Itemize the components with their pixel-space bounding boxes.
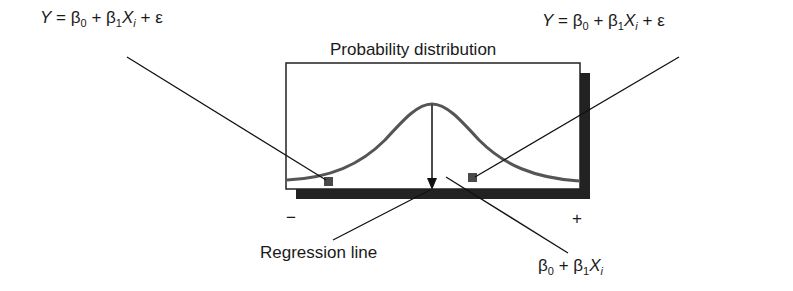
eq-y: Y xyxy=(542,11,553,30)
distribution-title: Probability distribution xyxy=(330,41,496,58)
left-equation: Y = β0 + β1Xi + ε xyxy=(40,9,163,26)
eq-x: X xyxy=(624,11,635,30)
right-equation: Y = β0 + β1Xi + ε xyxy=(542,12,665,29)
eq-sub0: 0 xyxy=(548,265,554,277)
axis-plus-label: + xyxy=(572,210,582,227)
eq-beta0: β xyxy=(573,11,583,30)
eq-beta0: β xyxy=(71,8,81,27)
eq-plus: + xyxy=(559,256,569,275)
data-point-left xyxy=(324,177,333,186)
eq-y: Y xyxy=(40,8,51,27)
axis-minus-label: − xyxy=(286,209,296,226)
eq-epsilon: ε xyxy=(155,8,163,27)
eq-x: X xyxy=(122,8,133,27)
eq-epsilon: ε xyxy=(657,11,665,30)
eq-equals: = xyxy=(558,11,568,30)
regression-line-label: Regression line xyxy=(260,244,377,261)
eq-plus: + xyxy=(593,11,603,30)
eq-subi: i xyxy=(635,20,637,32)
eq-subi: i xyxy=(133,17,135,29)
eq-beta0: β xyxy=(538,256,548,275)
eq-beta1: β xyxy=(608,11,618,30)
eq-plus: + xyxy=(91,8,101,27)
eq-subi: i xyxy=(601,265,603,277)
eq-x: X xyxy=(589,256,600,275)
eq-equals: = xyxy=(56,8,66,27)
eq-sub0: 0 xyxy=(583,20,589,32)
mean-equation: β0 + β1Xi xyxy=(538,257,603,274)
data-point-right xyxy=(468,173,477,182)
eq-plus: + xyxy=(643,11,653,30)
eq-beta1: β xyxy=(573,256,583,275)
eq-plus: + xyxy=(141,8,151,27)
eq-sub0: 0 xyxy=(81,17,87,29)
distribution-box xyxy=(286,63,580,189)
eq-beta1: β xyxy=(106,8,116,27)
